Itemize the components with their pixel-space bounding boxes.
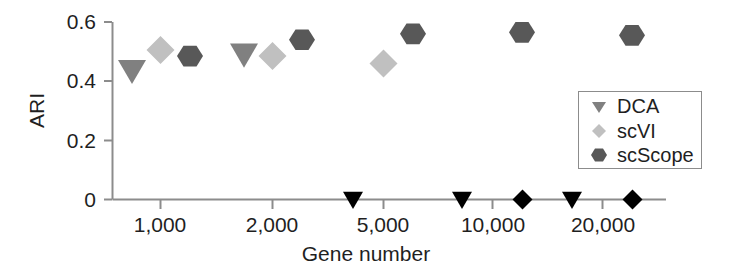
point-scvi-10000 [513,190,533,210]
point-scscope-2000 [289,29,315,50]
y-tick-label-0: 0 [42,189,96,210]
legend-label-scscope: scScope [617,145,694,165]
x-axis-ticks [161,200,603,210]
y-axis-title: ARI [26,81,47,141]
x-axis-title: Gene number [266,243,466,264]
chart-figure: 0 0.2 0.4 0.6 1,000 2,000 5,000 10,000 2… [0,0,732,271]
point-dca-2000 [230,44,258,68]
data-markers [118,22,645,210]
y-tick-label-0-6: 0.6 [42,11,96,32]
point-scscope-10000 [509,22,535,43]
x-tick-label-2000: 2,000 [212,214,332,235]
point-dca-1000 [118,60,146,84]
triangle-down-icon [588,95,610,117]
point-scvi-1000 [147,36,175,64]
x-tick-label-5000: 5,000 [323,214,443,235]
legend-item-scscope[interactable]: scScope [588,143,694,167]
point-scscope-1000 [177,46,203,67]
point-scscope-20000 [619,25,645,46]
point-scvi-20000 [623,190,643,210]
x-tick-label-1000: 1,000 [100,214,220,235]
legend-item-scvi[interactable]: scVI [588,119,656,143]
diamond-icon [588,120,610,142]
x-tick-label-20000: 20,000 [538,214,668,235]
legend-label-scvi: scVI [617,121,656,141]
legend-item-dca[interactable]: DCA [588,94,659,118]
point-scscope-5000 [400,23,426,44]
y-axis-ticks [104,22,112,200]
point-scvi-5000 [370,49,398,77]
hexagon-icon [588,144,610,166]
legend-label-dca: DCA [617,96,659,116]
point-scvi-2000 [259,42,287,70]
y-tick-label-0-4: 0.4 [42,70,96,91]
y-tick-label-0-2: 0.2 [42,130,96,151]
